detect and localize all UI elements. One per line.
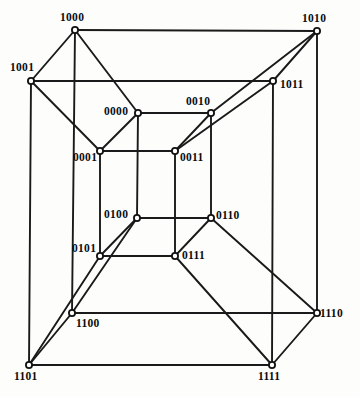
- vertex-label-1000: 1000: [60, 12, 84, 24]
- edge-1010-1011: [273, 31, 317, 81]
- vertex-1011: [270, 78, 276, 84]
- vertex-label-1001: 1001: [10, 62, 34, 74]
- vertex-1100: [69, 310, 75, 316]
- vertex-label-1111: 1111: [258, 371, 280, 383]
- vertex-label-1011: 1011: [280, 79, 304, 91]
- vertex-1010: [314, 28, 320, 34]
- vertex-label-1100: 1100: [76, 318, 100, 330]
- vertex-label-0001: 0001: [73, 152, 97, 164]
- vertex-label-0000: 0000: [104, 106, 128, 118]
- vertex-label-0110: 0110: [216, 210, 240, 222]
- vertex-0001: [97, 148, 103, 154]
- vertex-1000: [72, 27, 78, 33]
- vertex-1101: [26, 362, 32, 368]
- vertex-label-1010: 1010: [302, 13, 326, 25]
- hypercube-diagram: 1000101010011011110011101101111100000010…: [0, 0, 360, 397]
- edge-1000-0000: [75, 30, 138, 113]
- vertex-1001: [28, 78, 34, 84]
- edge-1110-1111: [272, 313, 317, 365]
- edge-1010-0010: [211, 31, 317, 113]
- edge-0000-0100: [137, 113, 138, 218]
- edge-1000-1010: [75, 30, 317, 31]
- vertex-label-1110: 1110: [320, 308, 343, 320]
- edge-0000-0001: [100, 113, 138, 151]
- vertex-0110: [208, 215, 214, 221]
- vertex-label-0011: 0011: [180, 152, 204, 164]
- vertex-0010: [208, 110, 214, 116]
- edge-1011-1111: [272, 81, 273, 365]
- hypercube-graph-svg: [0, 0, 360, 397]
- edge-1110-0110: [211, 218, 317, 313]
- vertex-0101: [97, 253, 103, 259]
- vertex-0111: [172, 253, 178, 259]
- edge-0010-0011: [175, 113, 211, 151]
- edge-1000-1100: [72, 30, 75, 313]
- vertex-label-1101: 1101: [14, 371, 38, 383]
- vertex-label-0010: 0010: [186, 96, 210, 108]
- edge-1000-1001: [31, 30, 75, 81]
- vertex-label-0101: 0101: [72, 243, 96, 255]
- vertex-label-0100: 0100: [104, 209, 128, 221]
- edge-1001-1101: [29, 81, 31, 365]
- vertex-1111: [269, 362, 275, 368]
- vertex-0100: [134, 215, 140, 221]
- vertex-0011: [172, 148, 178, 154]
- edge-1101-0101: [29, 256, 100, 365]
- edge-1011-0011: [175, 81, 273, 151]
- edge-1100-0100: [72, 218, 137, 313]
- edge-1001-0001: [31, 81, 100, 151]
- vertex-label-0111: 0111: [182, 250, 205, 262]
- edge-0100-0101: [100, 218, 137, 256]
- edge-1100-1101: [29, 313, 72, 365]
- edge-1111-0111: [175, 256, 272, 365]
- vertex-0000: [135, 110, 141, 116]
